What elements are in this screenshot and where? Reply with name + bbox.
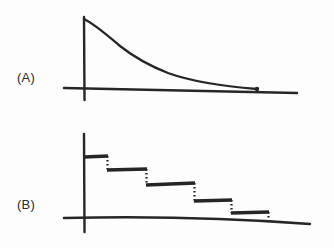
panel-a-decay-curve [84,19,257,89]
panel-b-baseline [64,217,310,224]
panel-b-group [64,134,310,232]
panel-a-group [64,17,297,100]
panel-a-baseline [64,88,297,93]
figure-root: (A) (B) [0,0,334,248]
panel-b-step-tread-4 [194,200,232,201]
panel-b-step-tread-2 [107,169,147,170]
panel-b-vertical-axis [84,134,85,232]
panel-b-step-tread-5 [231,212,269,213]
figure-canvas [0,0,334,248]
panel-b-step-tread-1 [84,156,108,157]
panel-a-curve-endpoint [255,87,259,91]
panel-a-vertical-axis [84,17,85,100]
panel-b-step-tread-3 [146,183,195,185]
